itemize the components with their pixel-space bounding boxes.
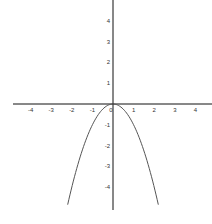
y-tick-label: -4 [105,184,111,190]
x-tick-label: 1 [132,107,136,113]
x-tick-label: -2 [69,107,75,113]
x-tick-label: -4 [28,107,34,113]
x-tick-label: -1 [90,107,96,113]
y-tick-label: -3 [105,163,111,169]
y-tick-label: 2 [107,59,111,65]
x-tick-label: -3 [49,107,55,113]
x-tick-label: 2 [153,107,157,113]
function-plot: -4-3-2-101234 4321-1-2-3-4 [0,0,212,224]
y-tick-label: -1 [105,122,111,128]
y-tick-label: 4 [107,18,111,24]
y-tick-label: 3 [107,39,111,45]
x-tick-label: 4 [194,107,198,113]
x-tick-label: 3 [173,107,177,113]
y-tick-label: 1 [107,80,111,86]
y-tick-label: -2 [105,143,111,149]
